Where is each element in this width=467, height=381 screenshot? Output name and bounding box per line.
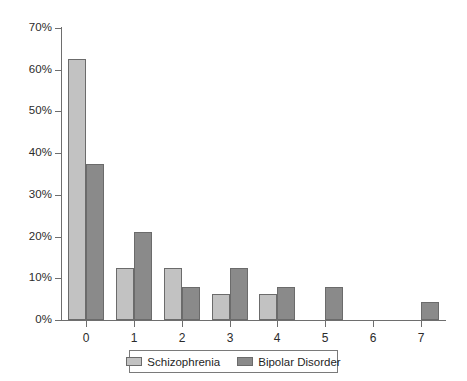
x-axis-tick-label: 0 — [66, 331, 106, 345]
y-axis-tick-label: 60% — [6, 64, 52, 76]
y-axis-tick — [55, 153, 61, 154]
bar-bipolar-disorder-5 — [325, 287, 343, 320]
x-axis-tick-label: 4 — [257, 331, 297, 345]
x-axis-line — [61, 320, 446, 321]
x-axis-tick — [230, 321, 231, 327]
y-axis-tick-label: 50% — [6, 105, 52, 117]
legend-label-bipolar-disorder: Bipolar Disorder — [258, 356, 340, 368]
x-axis-tick — [373, 321, 374, 327]
y-axis-tick-label: 10% — [6, 272, 52, 284]
y-axis-tick-label-wrap: 60% — [0, 64, 52, 76]
y-axis-tick-label: 30% — [6, 189, 52, 201]
bar-bipolar-disorder-1 — [134, 232, 152, 320]
x-axis-tick — [86, 321, 87, 327]
y-axis-tick-label: 0% — [6, 314, 52, 326]
bar-schizophrenia-4 — [259, 294, 277, 320]
x-axis-tick-label: 2 — [162, 331, 202, 345]
x-axis-tick-label: 3 — [210, 331, 250, 345]
bar-schizophrenia-3 — [212, 294, 230, 320]
y-axis-tick — [55, 195, 61, 196]
x-axis-tick — [325, 321, 326, 327]
y-axis-tick-label-wrap: 40% — [0, 147, 52, 159]
bar-schizophrenia-0 — [68, 59, 86, 320]
y-axis-tick-label-wrap: 0% — [0, 314, 52, 326]
y-axis-tick-label-wrap: 70% — [0, 22, 52, 34]
x-axis-tick — [277, 321, 278, 327]
legend-label-schizophrenia: Schizophrenia — [147, 356, 220, 368]
y-axis-tick — [55, 278, 61, 279]
x-axis-tick-label: 7 — [401, 331, 441, 345]
legend-swatch-bipolar-disorder — [237, 357, 253, 366]
bar-bipolar-disorder-0 — [86, 164, 104, 320]
y-axis-tick-label-wrap: 30% — [0, 189, 52, 201]
bar-chart-figure: 0%10%20%30%40%50%60%70% 01234567 Schizop… — [0, 0, 467, 381]
x-axis-tick — [421, 321, 422, 327]
y-axis-tick — [55, 70, 61, 71]
bar-bipolar-disorder-4 — [277, 287, 295, 320]
legend-entry-schizophrenia: Schizophrenia — [126, 356, 220, 368]
x-axis-tick-label: 5 — [305, 331, 345, 345]
chart-legend: Schizophrenia Bipolar Disorder — [129, 350, 338, 373]
bar-bipolar-disorder-7 — [421, 302, 439, 320]
legend-swatch-schizophrenia — [126, 357, 142, 366]
y-axis-tick-label-wrap: 20% — [0, 231, 52, 243]
bar-bipolar-disorder-3 — [230, 268, 248, 320]
bar-schizophrenia-2 — [164, 268, 182, 320]
y-axis-tick-label: 20% — [6, 231, 52, 243]
x-axis-tick-label: 6 — [353, 331, 393, 345]
bar-schizophrenia-1 — [116, 268, 134, 320]
y-axis-tick-label-wrap: 50% — [0, 105, 52, 117]
y-axis-tick-label-wrap: 10% — [0, 272, 52, 284]
y-axis-tick — [55, 28, 61, 29]
x-axis-tick — [182, 321, 183, 327]
y-axis-tick — [55, 320, 61, 321]
x-axis-tick — [134, 321, 135, 327]
y-axis-tick — [55, 237, 61, 238]
y-axis-tick — [55, 111, 61, 112]
x-axis-tick-label: 1 — [114, 331, 154, 345]
y-axis-tick-label: 70% — [6, 22, 52, 34]
bar-bipolar-disorder-2 — [182, 287, 200, 320]
plot-area — [62, 28, 445, 320]
legend-entry-bipolar-disorder: Bipolar Disorder — [237, 356, 340, 368]
y-axis-tick-label: 40% — [6, 147, 52, 159]
